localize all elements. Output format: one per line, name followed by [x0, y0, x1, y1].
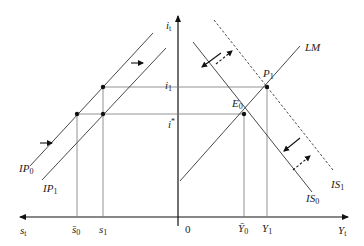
ip-curves	[30, 33, 166, 180]
point-e0	[242, 112, 246, 116]
point-p1	[265, 85, 269, 89]
tick-label-s0bar: s̄0	[72, 224, 80, 237]
lm-curve	[180, 46, 300, 181]
is-shift-arrow-right-upper	[216, 51, 232, 64]
axis-label-i: it	[166, 20, 171, 33]
point-ip0-i1	[101, 85, 105, 89]
origin-label: 0	[185, 224, 191, 235]
diagram-svg	[0, 0, 364, 246]
label-lm: LM	[305, 42, 320, 53]
label-is0: IS0	[306, 193, 319, 206]
is-lm-ip-diagram: it i1 i* LM P1 E0 IS1 IS0 IP0 IP1 st s̄0…	[0, 0, 364, 246]
point-ip1-istar	[101, 112, 105, 116]
label-ip0: IP0	[19, 163, 33, 176]
label-ip1: IP1	[43, 183, 57, 196]
tick-label-y1: Y1	[262, 223, 272, 236]
tick-label-s1: s1	[99, 224, 107, 237]
point-ip0-istar	[75, 112, 79, 116]
tick-label-i1: i1	[165, 80, 172, 93]
label-is1: IS1	[331, 179, 344, 192]
label-e0: E0	[232, 98, 243, 111]
tick-label-istar: i*	[168, 118, 175, 130]
ip0-curve	[30, 33, 153, 166]
label-p1: P1	[263, 68, 274, 81]
is-shift-arrow-left-lower	[284, 138, 300, 151]
tick-label-y0bar: Ȳ0	[238, 223, 248, 236]
is-shift-arrow-right-lower	[293, 156, 310, 170]
axis-label-y: Yt	[338, 225, 346, 238]
axis-label-s: st	[20, 225, 27, 238]
